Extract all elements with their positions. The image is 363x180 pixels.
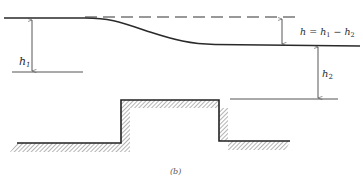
channel-flow-diagram: h1 h = h1 − h2 h2 (b) (0, 0, 363, 180)
h2-label: h2 (322, 68, 333, 81)
channel-bed-hatching (10, 100, 290, 152)
figure-caption: (b) (170, 167, 181, 176)
h1-label: h1 (19, 55, 31, 69)
h-equation-label: h = h1 − h2 (300, 26, 355, 39)
